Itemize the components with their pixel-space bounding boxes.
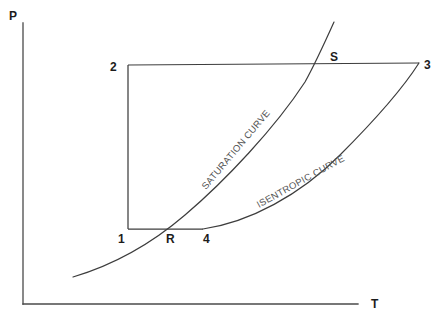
saturation-curve-label: SATURATION CURVE	[199, 107, 272, 191]
process-line-2-3	[128, 63, 419, 65]
state-label-4: 4	[203, 232, 210, 246]
state-label-s: S	[330, 50, 338, 64]
isentropic-curve-label: ISENTROPIC CURVE	[255, 152, 347, 209]
y-axis-label: P	[9, 9, 17, 23]
state-label-1: 1	[118, 232, 125, 246]
pt-diagram-figure: P T SATURATION CURVE ISENTROPIC CURVE 1 …	[0, 0, 441, 322]
axes-group: P T	[9, 9, 379, 311]
state-labels-group: 1 2 3 4 R S	[110, 50, 431, 246]
state-label-2: 2	[110, 60, 117, 74]
state-label-3: 3	[424, 58, 431, 72]
curves-group	[73, 22, 419, 277]
x-axis-label: T	[371, 297, 379, 311]
state-label-r: R	[166, 232, 175, 246]
curve-labels-group: SATURATION CURVE ISENTROPIC CURVE	[199, 107, 346, 209]
diagram-canvas: P T SATURATION CURVE ISENTROPIC CURVE 1 …	[0, 0, 441, 322]
